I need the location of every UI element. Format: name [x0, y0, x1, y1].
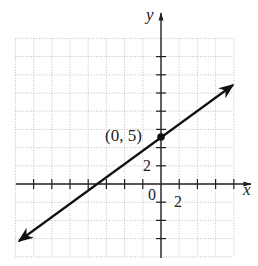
- y-tick-label: 2: [143, 157, 151, 174]
- point-label: (0, 5): [105, 126, 142, 145]
- x-axis-label: x: [242, 180, 251, 199]
- point-marker: [157, 133, 165, 141]
- coordinate-plane: (0, 5) y x 0 2 2: [0, 0, 258, 266]
- x-tick-label: 2: [174, 193, 182, 210]
- grid: [15, 38, 233, 256]
- origin-label: 0: [148, 186, 156, 203]
- graph-line: [19, 85, 233, 241]
- y-axis-label: y: [144, 5, 154, 24]
- axis-ticks: [34, 57, 234, 239]
